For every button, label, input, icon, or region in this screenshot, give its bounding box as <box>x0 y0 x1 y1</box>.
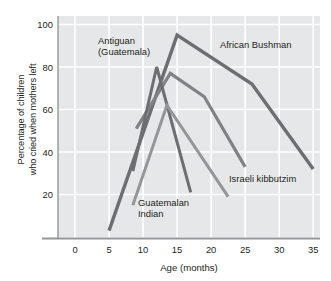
y-tick-labels: 20406080100 <box>37 19 53 200</box>
x-tick-label: 10 <box>138 244 148 255</box>
x-axis-title: Age (months) <box>58 262 320 273</box>
series-label-line2: Indian <box>138 208 164 219</box>
x-tick-label: 15 <box>172 244 182 255</box>
x-tick-label: 30 <box>274 244 284 255</box>
y-tick-label: 100 <box>37 19 53 30</box>
chart-figure: Percentage of children who cried when mo… <box>0 0 331 281</box>
x-tick-label: 5 <box>106 244 111 255</box>
y-tick-label: 20 <box>43 189 53 200</box>
y-tick-label: 80 <box>43 62 53 73</box>
x-tick-label: 20 <box>206 244 216 255</box>
x-tick-label: 25 <box>240 244 250 255</box>
x-tick-labels: 05101520253035 <box>72 244 318 255</box>
series-label-african-bushman: African Bushman <box>220 39 291 50</box>
series-label-line1: Guatemalan <box>138 197 189 208</box>
series-label-line1: Antiguan <box>98 35 135 46</box>
series-label-line1: Israeli kibbutzim <box>229 173 296 184</box>
x-tick-label: 35 <box>308 244 318 255</box>
y-tick-label: 40 <box>43 147 53 158</box>
y-tick-label: 60 <box>43 104 53 115</box>
plot-area: 2040608010005101520253035Antiguan(Guatem… <box>0 0 331 281</box>
x-tick-label: 0 <box>72 244 77 255</box>
series-label-israeli-kibbutzim: Israeli kibbutzim <box>229 173 296 184</box>
series-label-line1: African Bushman <box>220 39 291 50</box>
series-label-line2: (Guatemala) <box>98 46 150 57</box>
